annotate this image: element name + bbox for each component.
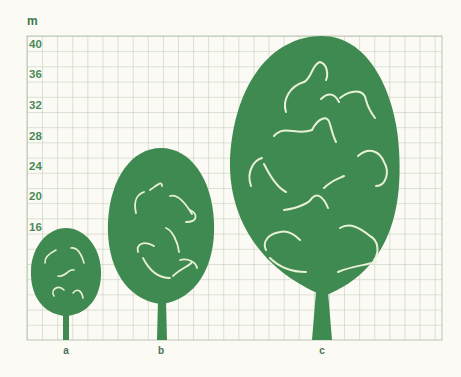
y-tick-40: 40 [29, 38, 42, 50]
y-tick-16: 16 [29, 221, 42, 233]
unit-label: m [27, 14, 38, 28]
tree-height-diagram: m 40 36 32 28 24 20 16 a b c [0, 0, 461, 377]
tree-label-c: c [312, 345, 332, 356]
y-tick-32: 32 [29, 99, 42, 111]
y-tick-28: 28 [29, 130, 42, 142]
y-tick-20: 20 [29, 190, 42, 202]
y-tick-36: 36 [29, 68, 42, 80]
y-tick-24: 24 [29, 160, 42, 172]
tree-label-b: b [151, 345, 171, 356]
grid-and-trees [0, 0, 461, 377]
tree-label-a: a [56, 345, 76, 356]
